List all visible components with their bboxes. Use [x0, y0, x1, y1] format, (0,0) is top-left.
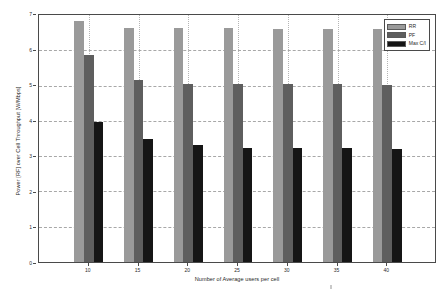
y-tick-mark: [33, 227, 36, 228]
y-tick-label: 2: [29, 189, 32, 194]
figure-canvas: Power [RF] over Cell Throughput [W/Mbps]…: [0, 0, 448, 294]
y-tick-label: 4: [29, 118, 32, 123]
y-tick-label: 0: [29, 261, 32, 266]
y-tick-label: 6: [29, 47, 32, 52]
bar: [333, 84, 343, 262]
bar: [382, 85, 392, 263]
x-tick-mark: [237, 263, 238, 266]
y-tick-label: 3: [29, 154, 32, 159]
x-tick-mark: [88, 263, 89, 266]
bar: [233, 84, 243, 262]
x-tick-mark: [287, 263, 288, 266]
x-tick-label: 30: [284, 268, 290, 273]
bar: [323, 29, 333, 262]
y-tick-mark: [33, 192, 36, 193]
y-tick-mark: [33, 263, 36, 264]
x-tick-mark: [337, 263, 338, 266]
legend-label: PF: [409, 33, 415, 38]
x-tick-mark: [138, 263, 139, 266]
bar: [273, 29, 283, 262]
y-tick-mark: [33, 14, 36, 15]
y-tick-mark: [33, 85, 36, 86]
bar: [84, 55, 94, 262]
scan-artifact: [330, 285, 332, 289]
x-tick-label: 35: [334, 268, 340, 273]
bar: [183, 84, 193, 262]
x-tick-label: 10: [85, 268, 91, 273]
x-axis-title: Number of Average users per cell: [38, 276, 436, 282]
legend-swatch: [387, 24, 406, 30]
bar: [74, 21, 84, 262]
legend-label: RR: [409, 24, 416, 29]
legend-item: PF: [387, 31, 426, 39]
bar: [174, 28, 184, 262]
bar: [293, 148, 303, 262]
bar: [243, 148, 253, 262]
x-axis-tick-labels: 10152025303540: [38, 263, 436, 277]
bar: [373, 29, 383, 262]
y-tick-label: 5: [29, 83, 32, 88]
bar: [392, 149, 402, 262]
legend-label: Max C/I: [409, 41, 426, 46]
x-tick-label: 25: [234, 268, 240, 273]
bar: [224, 28, 234, 262]
bar: [193, 145, 203, 262]
x-tick-label: 40: [383, 268, 389, 273]
bar: [283, 84, 293, 262]
bar-series-layer: [39, 15, 435, 262]
x-tick-mark: [386, 263, 387, 266]
bar: [342, 148, 352, 262]
bar: [124, 28, 134, 262]
bar: [134, 80, 144, 262]
x-tick-mark: [187, 263, 188, 266]
plot-area: RRPFMax C/I: [38, 14, 436, 263]
y-tick-mark: [33, 156, 36, 157]
y-tick-mark: [33, 121, 36, 122]
legend-swatch: [387, 41, 406, 47]
x-tick-label: 15: [135, 268, 141, 273]
bar: [143, 139, 153, 262]
legend-swatch: [387, 32, 406, 38]
legend: RRPFMax C/I: [384, 19, 430, 51]
legend-item: RR: [387, 23, 426, 31]
y-tick-label: 7: [29, 12, 32, 17]
bar: [94, 122, 104, 262]
x-tick-label: 20: [184, 268, 190, 273]
y-tick-mark: [33, 50, 36, 51]
y-axis-tick-labels: 01234567: [0, 14, 36, 263]
legend-item: Max C/I: [387, 40, 426, 48]
y-tick-label: 1: [29, 225, 32, 230]
